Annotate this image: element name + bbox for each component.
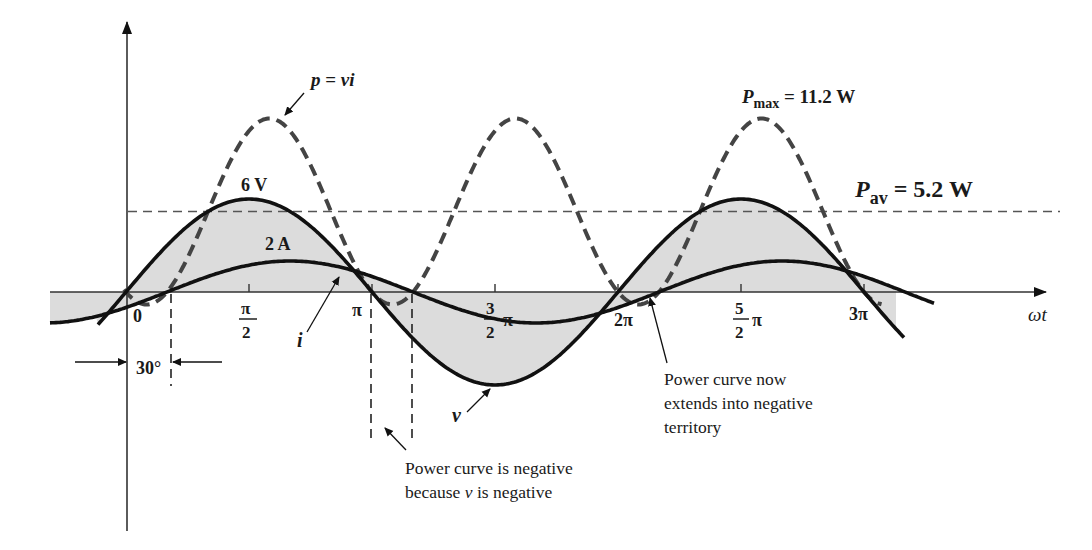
v-label-arrow <box>467 389 490 412</box>
tick-label-3pi: 3π <box>849 304 868 324</box>
negative-power-note: Power curve is negative because v is neg… <box>405 458 573 502</box>
tick-label-0: 0 <box>133 306 142 326</box>
svg-text:2: 2 <box>242 323 251 342</box>
svg-text:territory: territory <box>664 417 722 437</box>
i-amplitude-label: 2 A <box>265 234 291 254</box>
v-amplitude-label: 6 V <box>241 175 267 195</box>
tick-label-2pi: 2π <box>614 310 633 330</box>
svg-text:π: π <box>503 310 513 330</box>
omega-t-label: ωt <box>1028 304 1047 325</box>
p-av-label: Pav = 5.2 W <box>854 176 973 208</box>
p-label-arrow <box>285 93 304 115</box>
tick-label-half-pi: π 2 <box>239 299 257 342</box>
svg-text:because v is negative: because v is negative <box>405 482 552 502</box>
phase-angle-label: 30° <box>136 358 161 378</box>
svg-text:π: π <box>752 310 762 330</box>
svg-text:2: 2 <box>486 323 495 342</box>
v-curve-label: v <box>452 404 462 426</box>
negative-note-arrow <box>385 428 406 450</box>
extends-note-arrow <box>650 298 667 363</box>
tick-label-pi: π <box>352 300 362 320</box>
p-equals-vi-label: p = vi <box>309 69 355 90</box>
extends-negative-note: Power curve now extends into negative te… <box>664 369 813 437</box>
svg-text:Power curve now: Power curve now <box>664 369 787 389</box>
svg-text:2: 2 <box>735 323 744 342</box>
svg-text:3: 3 <box>486 299 495 318</box>
svg-text:extends into negative: extends into negative <box>664 393 813 413</box>
i-curve-label: i <box>297 329 303 351</box>
svg-text:π: π <box>241 299 251 318</box>
p-max-label: Pmax = 11.2 W <box>741 86 855 111</box>
tick-label-5-half-pi: 5 2 π <box>733 299 762 342</box>
svg-text:Power curve is negative: Power curve is negative <box>405 458 573 478</box>
svg-text:5: 5 <box>735 299 744 318</box>
power-waveform-diagram: p = vi Pmax = 11.2 W Pav = 5.2 W 6 V 2 A… <box>0 0 1092 550</box>
